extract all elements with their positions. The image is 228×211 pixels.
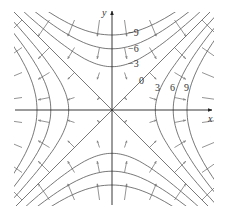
gradient-arrow [125, 98, 127, 100]
x-axis-label: x [207, 113, 213, 124]
gradient-arrow [38, 20, 49, 36]
level-label: −3 [128, 58, 139, 69]
gradient-arrow [125, 73, 127, 80]
gradient-arrow [125, 161, 127, 172]
level-label: 6 [170, 82, 175, 93]
level-label: 3 [155, 82, 160, 93]
gradient-arrow [97, 73, 99, 80]
axes: x y [15, 7, 213, 205]
gradient-arrow [38, 184, 49, 200]
gradient-arrow [150, 141, 157, 148]
level-label: −9 [128, 27, 139, 38]
gradient-arrow [202, 48, 218, 59]
gradient-arrow [202, 141, 218, 148]
gradient-arrow [6, 73, 22, 80]
gradient-arrow [97, 98, 99, 100]
gradient-arrow [38, 120, 49, 122]
level-curve [0, 0, 228, 67]
gradient-arrow [150, 120, 157, 122]
gradient-arrow [175, 73, 186, 80]
gradient-arrow [175, 120, 186, 122]
gradient-arrow [68, 73, 75, 80]
gradient-arrow [150, 184, 157, 200]
y-axis-label: y [101, 7, 107, 18]
gradient-arrow [150, 98, 157, 100]
gradient-arrow [68, 184, 75, 200]
gradient-arrow [6, 120, 22, 122]
gradient-arrow [38, 73, 49, 80]
gradient-arrow [97, 141, 99, 148]
level-label: 0 [139, 75, 144, 86]
level-labels: −9−6−30369 [128, 27, 189, 93]
gradient-arrow [38, 98, 49, 100]
level-curve [0, 0, 228, 49]
level-label: 9 [184, 82, 189, 93]
level-curve [0, 185, 228, 211]
gradient-arrow [150, 20, 157, 36]
gradient-arrow [6, 141, 22, 148]
gradient-arrow [125, 141, 127, 148]
gradient-arrow [6, 161, 22, 172]
level-label: −6 [128, 43, 139, 54]
gradient-arrow [97, 48, 99, 59]
gradient-arrow [68, 120, 75, 122]
level-curve [0, 153, 228, 211]
gradient-arrow [38, 141, 49, 148]
gradient-arrow [202, 73, 218, 80]
level-curve-diagram: x y −9−6−30369 [0, 0, 228, 211]
gradient-arrow [125, 48, 127, 59]
level-curve [0, 171, 228, 211]
level-curve [0, 0, 37, 211]
gradient-arrow [97, 161, 99, 172]
level-curves [0, 0, 228, 211]
gradient-arrow [150, 73, 157, 80]
gradient-arrow [175, 184, 186, 200]
gradient-arrow [68, 20, 75, 36]
gradient-arrow [6, 98, 22, 100]
level-curve [187, 0, 228, 211]
gradient-arrow [202, 98, 218, 100]
gradient-arrow [175, 20, 186, 36]
gradient-arrow [175, 98, 186, 100]
gradient-arrow [175, 141, 186, 148]
gradient-arrow [68, 141, 75, 148]
gradient-arrow [202, 161, 218, 172]
gradient-arrow [97, 120, 99, 122]
gradient-arrow [6, 48, 22, 59]
gradient-arrow [68, 98, 75, 100]
gradient-arrow [125, 120, 127, 122]
